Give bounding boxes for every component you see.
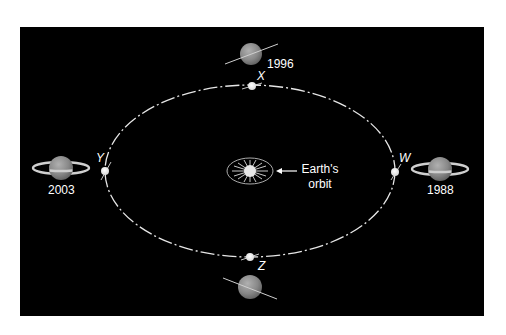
saturn-icon-z — [223, 275, 277, 299]
earth-orbit-label: Earth's orbit — [298, 163, 342, 191]
orbit-marker-x — [242, 82, 262, 90]
position-label-y: Y — [96, 152, 104, 165]
year-label-2003: 2003 — [48, 184, 75, 197]
position-label-w: W — [399, 152, 410, 165]
saturn-orbit-diagram — [0, 0, 506, 335]
year-label-1996: 1996 — [267, 58, 294, 71]
earth-orbit-label-line1: Earth's — [298, 163, 342, 176]
position-label-z: Z — [258, 260, 265, 273]
saturn-icon-1988 — [412, 157, 468, 181]
position-label-x: X — [257, 70, 265, 83]
earth-orbit-group — [227, 158, 297, 184]
orbit-marker-w — [391, 164, 401, 180]
year-label-1988: 1988 — [427, 184, 454, 197]
arrow-left-icon — [276, 168, 297, 174]
saturn-icon-2003 — [33, 156, 89, 180]
earth-orbit-label-line2: orbit — [298, 178, 342, 191]
